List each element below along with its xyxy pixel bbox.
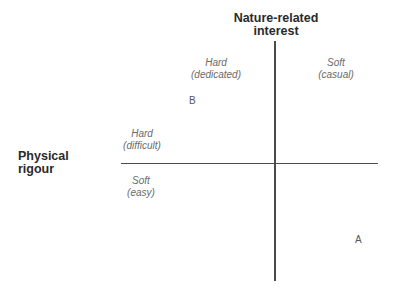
label-line1: Hard [184,57,248,69]
label-soft-casual: Soft (casual) [306,57,366,81]
label-line2: (difficult) [114,140,170,152]
horizontal-axis-line [121,163,378,165]
label-line1: Soft [306,57,366,69]
horizontal-axis-title-line2: rigour [18,163,69,176]
label-line2: (dedicated) [184,69,248,81]
horizontal-axis-title: Physical rigour [18,150,69,176]
label-line2: (casual) [306,69,366,81]
point-a: A [355,235,362,245]
label-line1: Hard [114,128,170,140]
vertical-axis-title: Nature-related interest [222,12,330,38]
point-b: B [189,96,196,106]
label-soft-easy: Soft (easy) [115,175,167,199]
label-hard-difficult: Hard (difficult) [114,128,170,152]
label-hard-dedicated: Hard (dedicated) [184,57,248,81]
vertical-axis-title-line2: interest [222,25,330,38]
label-line2: (easy) [115,187,167,199]
vertical-axis-line [274,41,276,281]
label-line1: Soft [115,175,167,187]
